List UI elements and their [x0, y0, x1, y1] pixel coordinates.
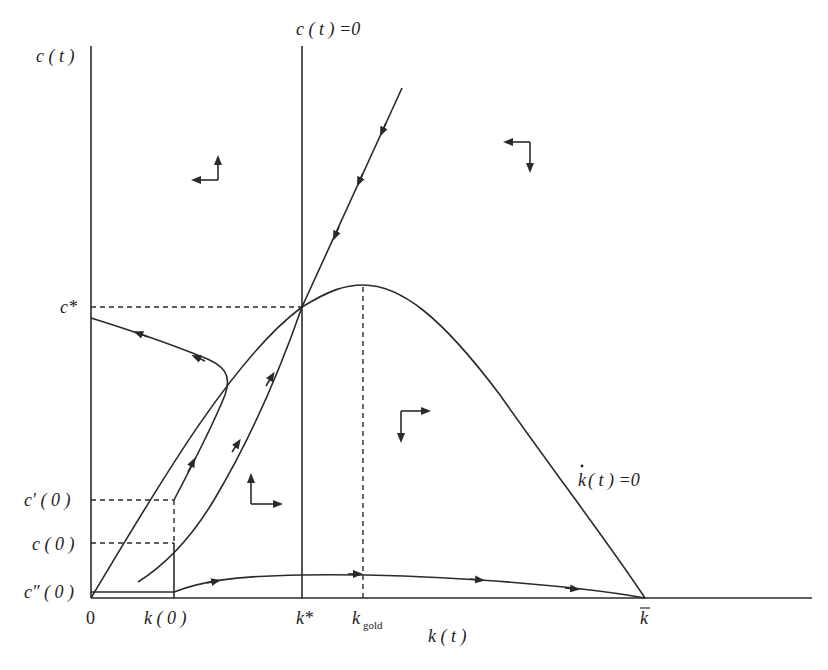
phase-diagram: c ( t ) c ( t ) =0 c* c′ ( 0 ) c ( 0 ) c…: [0, 0, 828, 670]
x-axis-label: k ( t ): [428, 626, 466, 647]
saddle-arrow-4: [266, 376, 272, 386]
direction-arrow-bottom-left: [251, 478, 278, 504]
c-0-label: c ( 0 ): [32, 534, 74, 555]
direction-arrow-bottom-right: [401, 411, 426, 438]
trajectory-arrows: [138, 123, 575, 589]
c-prime-0-label: c′ ( 0 ): [24, 490, 70, 511]
cdp-arrow-1: [207, 581, 216, 583]
kstar-label: k*: [296, 608, 313, 628]
svg-text:k: k: [578, 470, 587, 490]
svg-text:gold: gold: [363, 619, 383, 631]
saddle-arrow-1: [382, 123, 386, 132]
saddle-arrow-2: [359, 173, 363, 182]
c-double-prime-0-label: c″ ( 0 ): [24, 582, 74, 603]
cprime-arrow-3: [138, 333, 148, 337]
k0-label: k ( 0 ): [144, 608, 186, 629]
cdp-arrow-3: [470, 579, 480, 580]
direction-arrow-top-left: [196, 160, 218, 180]
cdp-arrow-4: [565, 588, 575, 589]
svg-text:k: k: [640, 608, 649, 628]
trajectory-c-prime-0: [91, 318, 228, 500]
kbar-label: k: [640, 608, 650, 628]
k-dot-zero-label: k ( t ) =0: [578, 465, 640, 491]
trajectory-c-double-prime-0: [174, 575, 645, 598]
kgold-label: k gold: [352, 608, 383, 631]
y-axis-label: c ( t ): [36, 46, 74, 67]
saddle-path-lower: [138, 307, 302, 582]
saddle-arrow-5: [232, 443, 238, 452]
cprime-arrow-1: [188, 462, 193, 472]
c-dot-zero-label: c ( t ) =0: [296, 19, 360, 40]
svg-text:k: k: [352, 608, 361, 628]
svg-text:( t ) =0: ( t ) =0: [588, 470, 640, 491]
origin-label: 0: [86, 608, 95, 628]
saddle-path-upper: [302, 88, 402, 307]
direction-arrow-top-right: [508, 142, 530, 168]
c-star-label: c*: [60, 297, 77, 317]
